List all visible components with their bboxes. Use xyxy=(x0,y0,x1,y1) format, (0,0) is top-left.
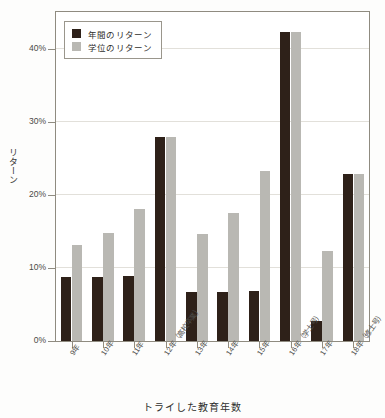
y-axis-title: リターン xyxy=(4,148,18,184)
bar-annual-return xyxy=(61,277,72,341)
x-tick-label: 9年 xyxy=(68,343,82,357)
bar-degree-return xyxy=(103,233,114,341)
x-tick-label: 14年 xyxy=(224,339,240,357)
bar-group xyxy=(150,12,181,341)
y-tick-label: 40% xyxy=(14,44,46,53)
legend-label: 学位のリターン xyxy=(88,41,152,53)
bar-degree-return xyxy=(260,171,271,341)
x-tick-label: 17年 xyxy=(318,339,334,357)
y-tick-label: 0% xyxy=(14,336,46,345)
bar-degree-return xyxy=(228,213,239,341)
bars-layer xyxy=(56,12,369,341)
y-tick-label: 20% xyxy=(14,190,46,199)
bar-degree-return xyxy=(322,251,333,341)
bar-group xyxy=(275,12,306,341)
bar-chart: リターン 0%10%20%30%40% 9年10年11年12年（高校卒業）13年… xyxy=(0,0,385,418)
y-tick-mark xyxy=(48,268,55,269)
bar-annual-return xyxy=(249,291,260,341)
bar-group xyxy=(87,12,118,341)
bar-annual-return xyxy=(280,32,291,341)
bar-group xyxy=(338,12,369,341)
x-tick-label: 15年 xyxy=(255,339,271,357)
bar-group xyxy=(56,12,87,341)
bar-group xyxy=(181,12,212,341)
bar-annual-return xyxy=(155,137,166,341)
y-tick-mark xyxy=(48,195,55,196)
legend-swatch-degree xyxy=(72,42,81,51)
bar-group xyxy=(119,12,150,341)
bar-group xyxy=(306,12,337,341)
y-tick-label: 30% xyxy=(14,117,46,126)
bar-degree-return xyxy=(134,209,145,341)
bar-annual-return xyxy=(123,276,134,341)
chart-legend: 年間のリターン学位のリターン xyxy=(64,21,162,59)
legend-label: 年間のリターン xyxy=(88,28,152,40)
bar-group xyxy=(213,12,244,341)
bar-degree-return xyxy=(354,174,365,341)
y-tick-mark xyxy=(48,341,55,342)
y-tick-mark xyxy=(48,122,55,123)
bar-annual-return xyxy=(343,174,354,341)
x-tick-label: 13年 xyxy=(193,339,209,357)
bar-annual-return xyxy=(217,292,228,341)
y-tick-label: 10% xyxy=(14,263,46,272)
bar-group xyxy=(244,12,275,341)
legend-swatch-annual xyxy=(72,29,81,38)
x-tick-label: 11年 xyxy=(130,340,146,357)
y-tick-mark xyxy=(48,49,55,50)
bar-degree-return xyxy=(166,137,177,341)
x-axis-title: トライした教育年数 xyxy=(0,399,385,414)
legend-item: 年間のリターン xyxy=(72,27,152,40)
x-tick-label: 10年 xyxy=(99,339,115,357)
bar-degree-return xyxy=(197,234,208,341)
legend-item: 学位のリターン xyxy=(72,40,152,53)
bar-annual-return xyxy=(92,277,103,341)
bar-degree-return xyxy=(291,32,302,341)
bar-degree-return xyxy=(72,245,83,341)
